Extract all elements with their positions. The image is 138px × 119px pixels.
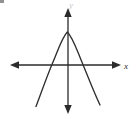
- y-axis-bottom-arrow-icon: [64, 105, 71, 114]
- x-axis-right-arrow-icon: [112, 61, 121, 69]
- coordinate-plane-svg: x y: [0, 0, 138, 119]
- x-axis-left-arrow-icon: [10, 61, 19, 69]
- parabola-figure: x y: [0, 0, 138, 119]
- x-axis-label: x: [123, 61, 128, 71]
- y-axis-group: [64, 8, 71, 114]
- y-axis-label: y: [68, 1, 73, 10]
- x-axis-group: [10, 61, 121, 69]
